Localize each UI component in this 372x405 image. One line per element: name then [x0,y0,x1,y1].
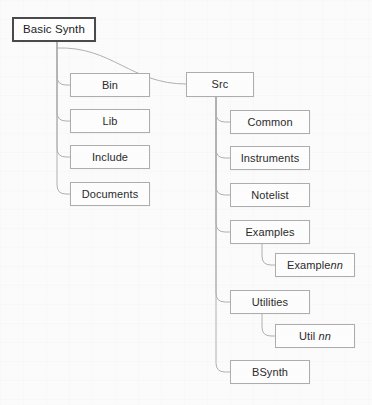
connector-utilities-to-utilnn [262,314,275,336]
label-variable-part: nn [331,259,343,271]
directory-tree-diagram: Basic SynthBinLibIncludeDocumentsSrcComm… [0,0,372,405]
tree-node-label: Basic Synth [23,24,85,36]
tree-node-label: Common [247,117,292,128]
tree-node-examplenn[interactable]: Examplenn [275,253,355,277]
tree-node-examples[interactable]: Examples [230,220,310,244]
tree-node-label: Examples [245,227,294,238]
connector-src-to-common [216,97,230,122]
tree-node-label: Include [92,152,128,163]
tree-node-bsynth[interactable]: BSynth [230,360,310,384]
tree-node-src[interactable]: Src [186,72,254,97]
tree-node-lib[interactable]: Lib [70,109,150,133]
tree-node-documents[interactable]: Documents [70,182,150,206]
label-static-part: Example [287,259,331,271]
tree-node-label: Utilities [252,297,288,308]
tree-node-utilnn[interactable]: Util nn [275,324,355,348]
tree-node-label: BSynth [252,367,288,378]
tree-node-label: Examplenn [287,260,343,271]
tree-node-label: Bin [102,80,118,91]
connector-root-to-lib [57,42,70,121]
tree-node-bin[interactable]: Bin [70,73,150,97]
connector-src-to-notelist [216,97,230,195]
connector-examples-to-examplenn [262,244,275,265]
connector-root-to-documents [57,42,70,194]
tree-node-label: Util nn [299,331,331,342]
label-variable-part: nn [319,330,331,342]
tree-node-label: Notelist [251,190,288,201]
tree-node-label: Src [212,79,229,90]
tree-node-instruments[interactable]: Instruments [230,146,310,170]
tree-node-root[interactable]: Basic Synth [12,17,96,42]
label-static-part: Util [299,330,318,342]
tree-node-notelist[interactable]: Notelist [230,183,310,207]
connector-src-to-examples [216,97,230,232]
tree-node-label: Instruments [241,153,300,164]
tree-node-label: Documents [82,189,139,200]
tree-node-common[interactable]: Common [230,110,310,134]
connector-src-to-utilities [216,97,230,302]
tree-node-include[interactable]: Include [70,145,150,169]
tree-node-utilities[interactable]: Utilities [230,290,310,314]
connector-src-to-instruments [216,97,230,158]
connector-src-to-bsynth [216,97,230,372]
connector-root-to-include [57,42,70,157]
tree-node-label: Lib [103,116,118,127]
connector-root-to-bin [57,42,70,85]
